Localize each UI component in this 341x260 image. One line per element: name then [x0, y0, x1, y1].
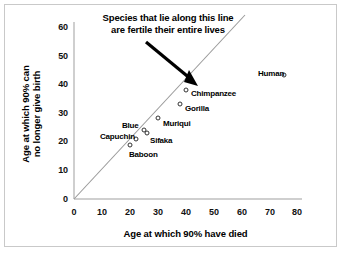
- data-point-baboon: [128, 143, 133, 148]
- data-point-sifaka: [145, 131, 150, 136]
- data-label-muriqui: Muriqui: [163, 119, 190, 128]
- x-tick-label: 80: [292, 207, 302, 217]
- y-tick-label: 50: [48, 51, 68, 61]
- y-axis-title-line-2: no longer give birth: [31, 39, 42, 189]
- x-tick-label: 50: [209, 207, 219, 217]
- data-label-baboon: Baboon: [129, 150, 158, 159]
- plot-canvas: [0, 0, 341, 260]
- line-annotation-text: Species that lie along this line are fer…: [78, 12, 258, 36]
- identity-reference-line: [74, 15, 245, 199]
- y-tick-label: 60: [48, 22, 68, 32]
- data-label-human: Human: [258, 69, 284, 78]
- data-point-gorilla: [178, 102, 183, 107]
- x-tick-label: 60: [237, 207, 247, 217]
- y-tick-label: 30: [48, 108, 68, 118]
- x-tick-label: 40: [181, 207, 191, 217]
- data-label-sifaka: Sifaka: [150, 136, 172, 145]
- y-tick-label: 20: [48, 136, 68, 146]
- data-label-gorilla: Gorilla: [185, 104, 209, 113]
- y-axis-title: Age at which 90% can no longer give birt…: [20, 39, 42, 189]
- y-tick-label: 40: [48, 79, 68, 89]
- annotation-arrow: [146, 42, 198, 86]
- data-point-chimpanzee: [184, 88, 189, 93]
- annotation-line-1: Species that lie along this line: [78, 12, 258, 24]
- x-tick-label: 10: [97, 207, 107, 217]
- y-tick-label: 10: [48, 165, 68, 175]
- data-point-muriqui: [156, 116, 161, 121]
- data-label-chimpanzee: Chimpanzee: [191, 89, 236, 98]
- x-tick-label: 30: [153, 207, 163, 217]
- x-axis-title: Age at which 90% have died: [74, 228, 297, 239]
- scatter-chart-figure: Age at which 90% can no longer give birt…: [0, 0, 341, 260]
- data-label-capuchin: Capuchin: [100, 132, 135, 141]
- data-label-blue: Blue: [122, 121, 139, 130]
- y-tick-label: 0: [52, 194, 68, 204]
- x-tick-label: 20: [125, 207, 135, 217]
- x-tick-label: 70: [265, 207, 275, 217]
- y-axis-title-line-1: Age at which 90% can: [20, 39, 31, 189]
- x-tick-label: 0: [72, 207, 77, 217]
- annotation-line-2: are fertile their entire lives: [78, 24, 258, 36]
